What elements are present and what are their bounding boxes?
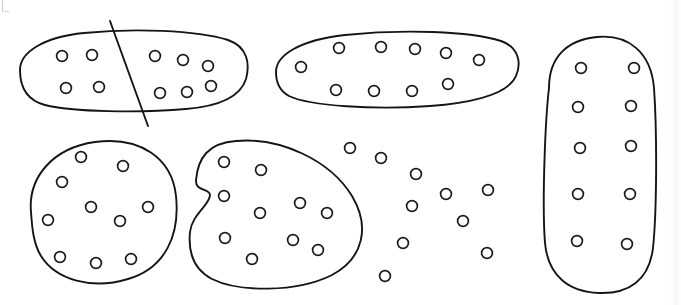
loose-circle xyxy=(441,189,452,200)
group-circle xyxy=(118,161,129,172)
group-circle xyxy=(376,42,387,53)
group-circle xyxy=(255,208,266,219)
group-circle xyxy=(443,79,454,90)
loose-circle xyxy=(407,201,418,212)
group-circle xyxy=(203,61,214,72)
group-circle xyxy=(87,50,98,61)
group-circle xyxy=(126,254,137,265)
group-circle xyxy=(43,215,54,226)
group-circle xyxy=(94,82,105,93)
loose-circle xyxy=(398,238,409,249)
group-circle xyxy=(206,81,217,92)
group-circle xyxy=(296,62,307,73)
bottom-left-group xyxy=(31,141,177,283)
circle-grouping-drawing xyxy=(0,0,681,305)
group-circle xyxy=(219,191,230,202)
group-circle xyxy=(334,43,345,54)
group-circle xyxy=(256,165,267,176)
loose-circle xyxy=(376,153,387,164)
group-circle xyxy=(155,88,166,99)
top-left-group-outline xyxy=(20,30,248,111)
group-circle xyxy=(322,208,333,219)
group-circle xyxy=(625,189,636,200)
loose-circle xyxy=(411,169,422,180)
group-circle xyxy=(295,198,306,209)
group-circle xyxy=(474,55,485,66)
group-circle xyxy=(626,101,637,112)
bottom-left-group-outline xyxy=(31,141,177,283)
group-circle xyxy=(115,216,126,227)
top-middle-group-outline xyxy=(276,32,519,108)
top-middle-group xyxy=(276,32,519,108)
group-circle xyxy=(575,143,586,154)
group-circle xyxy=(573,102,584,113)
group-circle xyxy=(150,51,161,62)
group-circle xyxy=(313,245,324,256)
group-circle xyxy=(247,254,258,265)
group-circle xyxy=(573,189,584,200)
group-circle xyxy=(407,86,418,97)
group-circle xyxy=(410,44,421,55)
ungrouped-circles xyxy=(345,143,494,282)
group-circle xyxy=(220,233,231,244)
group-circle xyxy=(626,141,637,152)
group-circle xyxy=(57,177,68,188)
bottom-middle-group xyxy=(190,141,362,289)
top-left-group xyxy=(20,30,248,111)
group-circle xyxy=(288,235,299,246)
group-circle xyxy=(86,202,97,213)
group-circle xyxy=(629,63,640,74)
divider-line-top-left xyxy=(110,21,148,126)
group-circle xyxy=(219,157,230,168)
group-circle xyxy=(369,86,380,97)
group-circle xyxy=(622,239,633,250)
right-tall-group-outline xyxy=(544,37,656,293)
group-circle xyxy=(572,236,583,247)
group-circle xyxy=(76,152,87,163)
group-circle xyxy=(61,83,72,94)
worksheet-canvas xyxy=(0,0,681,305)
right-tall-group xyxy=(544,37,656,293)
bottom-middle-group-outline xyxy=(190,141,362,289)
group-circle xyxy=(143,202,154,213)
loose-circle xyxy=(483,185,494,196)
group-circle xyxy=(576,63,587,74)
loose-circle xyxy=(458,216,469,227)
group-circle xyxy=(91,258,102,269)
loose-circle xyxy=(482,248,493,259)
group-circle xyxy=(441,48,452,59)
group-circle xyxy=(331,85,342,96)
loose-circle xyxy=(380,271,391,282)
group-circle xyxy=(182,87,193,98)
loose-circle xyxy=(345,143,356,154)
group-circle xyxy=(178,55,189,66)
group-circle xyxy=(55,252,66,263)
group-circle xyxy=(57,51,68,62)
